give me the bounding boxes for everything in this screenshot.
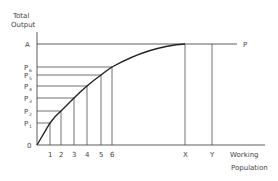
svg-text:P: P	[24, 95, 28, 103]
line-end-label-p: P	[243, 41, 247, 49]
svg-text:P: P	[24, 120, 28, 128]
x-tick-4: 4	[85, 151, 90, 159]
svg-text:1: 1	[29, 124, 32, 129]
svg-text:5: 5	[29, 76, 32, 81]
y-axis-label-line1: Total	[12, 12, 29, 20]
svg-text:P: P	[24, 64, 28, 72]
total-output-diagram: Total Output A P 6 P 5 P 4 P 3 P 2 P 1 0…	[0, 0, 278, 181]
x-tick-5: 5	[99, 151, 103, 159]
y-label-a: A	[25, 41, 30, 49]
x-tick-3: 3	[72, 151, 76, 159]
y-label-origin: 0	[27, 142, 31, 150]
svg-text:P: P	[24, 108, 28, 116]
x-axis-label-line1: Working	[230, 151, 259, 159]
svg-text:4: 4	[29, 87, 32, 92]
svg-text:P: P	[24, 72, 28, 80]
y-label-p1: P 1	[24, 120, 32, 129]
y-label-p3: P 3	[24, 95, 32, 104]
svg-text:P: P	[24, 83, 28, 91]
svg-text:6: 6	[29, 68, 32, 73]
x-tick-y: Y	[209, 151, 215, 159]
svg-text:2: 2	[29, 112, 32, 117]
x-axis-label-line2: Population	[231, 164, 268, 172]
x-tick-6: 6	[110, 151, 115, 159]
y-label-p4: P 4	[24, 83, 32, 92]
y-label-p2: P 2	[24, 108, 32, 117]
x-tick-x: X	[183, 151, 188, 159]
y-axis-label-line2: Output	[11, 21, 36, 29]
total-output-curve	[37, 44, 185, 145]
svg-text:3: 3	[29, 99, 32, 104]
x-tick-2: 2	[59, 151, 63, 159]
x-tick-1: 1	[48, 151, 52, 159]
y-label-p5: P 5	[24, 72, 32, 81]
